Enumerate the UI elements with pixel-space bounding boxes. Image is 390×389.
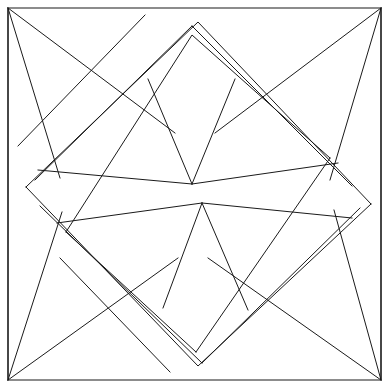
canvas-background — [0, 0, 390, 389]
geometric-figure-canvas — [0, 0, 390, 389]
